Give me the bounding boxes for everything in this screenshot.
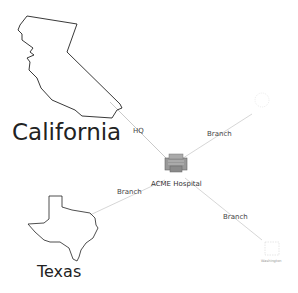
- faded-state-icon: [255, 93, 269, 107]
- california-outline-icon: [18, 16, 122, 118]
- node-label-texas: Texas: [37, 262, 81, 281]
- texas-outline-icon: [28, 196, 98, 261]
- edge-label-hq: HQ: [133, 127, 144, 135]
- edge-label-top-right: Branch: [207, 130, 232, 138]
- node-label-washington: Washington: [261, 259, 282, 263]
- faded-state-icon: [265, 242, 279, 255]
- node-label-california: California: [12, 119, 121, 145]
- edge-label-texas: Branch: [117, 188, 142, 196]
- node-label-center: ACME Hospital: [151, 180, 202, 188]
- diagram-canvas: [0, 0, 298, 293]
- hospital-building-icon: [165, 154, 187, 172]
- edge-label-washington: Branch: [223, 213, 248, 221]
